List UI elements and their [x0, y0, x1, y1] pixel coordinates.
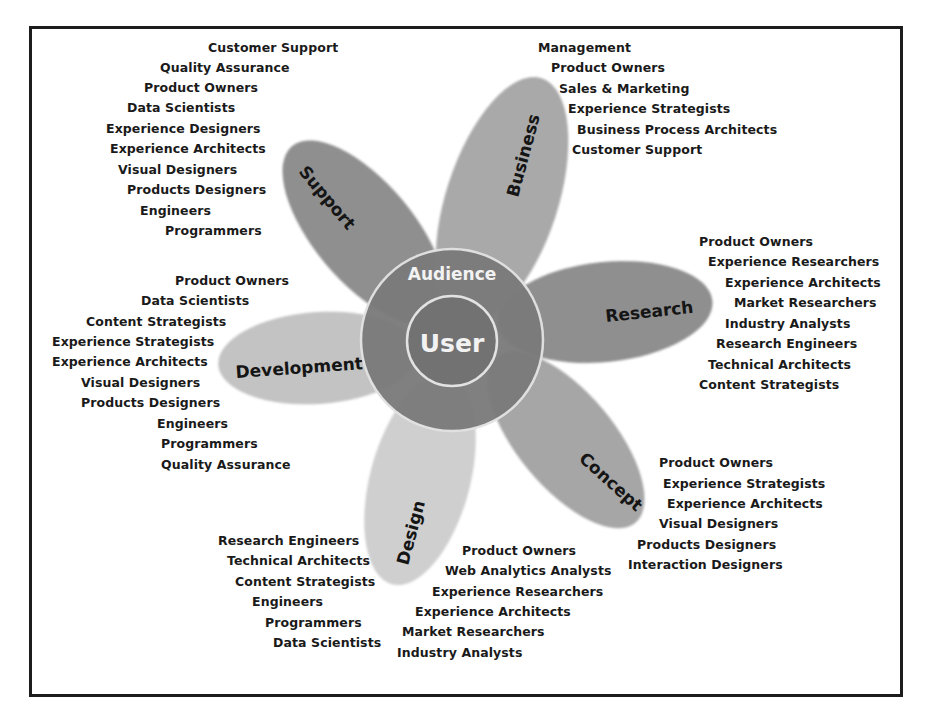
role-label: Management: [538, 38, 631, 58]
role-label: Experience Architects: [725, 273, 881, 293]
role-label: Engineers: [157, 414, 228, 434]
role-label: Experience Researchers: [708, 252, 879, 272]
role-label: Programmers: [161, 434, 258, 454]
role-label: Programmers: [165, 221, 262, 241]
role-label: Business Process Architects: [577, 120, 777, 140]
audience-label: Audience: [408, 264, 497, 284]
role-label: Experience Designers: [106, 119, 261, 139]
role-label: Visual Designers: [118, 160, 237, 180]
role-label: Research Engineers: [716, 334, 857, 354]
role-label: Product Owners: [175, 271, 289, 291]
role-label: Products Designers: [127, 180, 266, 200]
role-label: Data Scientists: [127, 98, 235, 118]
role-label: Customer Support: [572, 140, 702, 160]
role-label: Technical Architects: [227, 551, 370, 571]
role-label: Experience Architects: [667, 494, 823, 514]
role-label: Content Strategists: [699, 375, 839, 395]
role-label: Experience Architects: [415, 602, 571, 622]
role-label: Experience Strategists: [663, 474, 825, 494]
role-label: Technical Architects: [708, 355, 851, 375]
role-label: Content Strategists: [235, 572, 375, 592]
role-label: Experience Strategists: [568, 99, 730, 119]
role-label: Product Owners: [462, 541, 576, 561]
role-label: Experience Strategists: [52, 332, 214, 352]
role-label: Engineers: [252, 592, 323, 612]
role-label: Quality Assurance: [161, 455, 291, 475]
role-label: Market Researchers: [402, 622, 545, 642]
role-label: Data Scientists: [273, 633, 381, 653]
role-label: Experience Researchers: [432, 582, 603, 602]
role-label: Research Engineers: [218, 531, 359, 551]
role-label: Sales & Marketing: [559, 79, 690, 99]
role-label: Quality Assurance: [160, 58, 290, 78]
role-label: Industry Analysts: [397, 643, 522, 663]
role-label: Industry Analysts: [725, 314, 850, 334]
role-label: Data Scientists: [141, 291, 249, 311]
role-label: Product Owners: [659, 453, 773, 473]
role-label: Content Strategists: [86, 312, 226, 332]
role-label: Programmers: [265, 613, 362, 633]
role-label: Experience Architects: [110, 139, 266, 159]
role-label: Products Designers: [637, 535, 776, 555]
role-label: Web Analytics Analysts: [445, 561, 612, 581]
role-label: Customer Support: [208, 38, 338, 58]
role-label: Experience Architects: [52, 352, 208, 372]
role-label: Visual Designers: [81, 373, 200, 393]
role-label: Engineers: [140, 201, 211, 221]
role-label: Product Owners: [699, 232, 813, 252]
role-label: Products Designers: [81, 393, 220, 413]
role-label: Product Owners: [144, 78, 258, 98]
role-label: Market Researchers: [734, 293, 877, 313]
role-label: Visual Designers: [659, 514, 778, 534]
center-user-circle: User: [407, 296, 497, 386]
user-label: User: [420, 329, 485, 358]
role-label: Interaction Designers: [628, 555, 783, 575]
role-label: Product Owners: [551, 58, 665, 78]
